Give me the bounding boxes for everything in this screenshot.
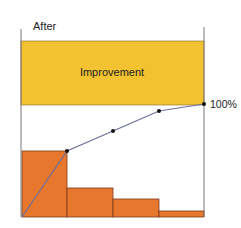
bar-3: [113, 199, 159, 217]
end-value-label: 100%: [210, 98, 237, 110]
bar-2: [67, 188, 113, 217]
chart-title: After: [33, 20, 57, 32]
point-1: [65, 149, 69, 153]
pareto-chart: After Improvement 100%: [0, 0, 241, 228]
bar-4: [159, 211, 204, 217]
point-3: [157, 109, 161, 113]
point-2: [111, 129, 115, 133]
point-4: [202, 102, 206, 106]
bars: [22, 151, 204, 217]
band-label: Improvement: [80, 66, 144, 78]
cumulative-points: [65, 102, 206, 153]
